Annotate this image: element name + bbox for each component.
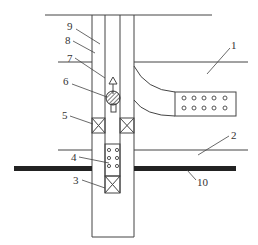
label-5: 5 [62,109,68,121]
label-4: 4 [71,151,77,163]
label-8: 8 [65,34,71,46]
label-6: 6 [63,75,69,87]
label-3: 3 [73,174,79,186]
wellbore-diagram: 9 8 7 6 5 4 3 1 2 10 [0,0,258,245]
barrier-layer-right [134,166,236,171]
label-9: 9 [67,20,73,32]
tool-body [106,91,120,105]
label-2: 2 [231,129,237,141]
tubing-perforations [107,148,118,167]
label-10: 10 [197,176,209,188]
flow-arrow-icon [109,77,117,84]
label-7: 7 [67,52,73,64]
lateral-branch-lower [134,100,175,116]
barrier-layer-left [14,166,92,171]
label-1: 1 [231,39,237,51]
lateral-perforations [182,96,227,110]
lateral-branch-upper [134,66,175,92]
